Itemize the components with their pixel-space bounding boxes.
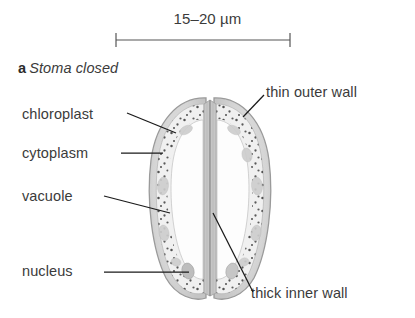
thick-inner-wall-right: [210, 100, 216, 296]
leader-thin-outer-wall: [243, 95, 264, 117]
thick-inner-wall-left: [204, 100, 210, 296]
guard-cell-left: [145, 95, 215, 305]
stoma-diagram-figure: 15–20 µm aStoma closed chloroplast cytop…: [0, 0, 415, 318]
diagram-canvas: [0, 0, 415, 318]
scale-bar: [116, 33, 290, 47]
guard-cell-right: [205, 95, 275, 305]
